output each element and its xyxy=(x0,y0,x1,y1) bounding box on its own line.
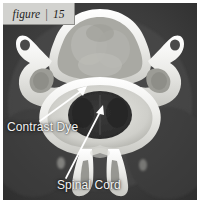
annotation-label-contrast-dye: Contrast Dye xyxy=(7,120,78,134)
ct-scan-image xyxy=(3,3,197,200)
figure-tag-word: figure xyxy=(13,8,41,20)
figure-tag-number: 15 xyxy=(53,8,65,20)
figure-tag-separator: | xyxy=(45,7,48,20)
ct-scan-svg xyxy=(3,3,197,200)
annotation-label-spinal-cord: Spinal Cord xyxy=(57,178,121,192)
figure-number-tag: figure | 15 xyxy=(3,3,75,25)
bone-fleck-right xyxy=(139,159,147,171)
figure-container: figure | 15 Contrast Dye Spinal Cord xyxy=(0,0,202,203)
bone-fleck-left xyxy=(57,157,65,169)
